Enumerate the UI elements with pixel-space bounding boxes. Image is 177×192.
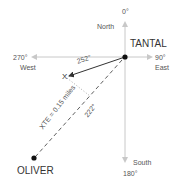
tantal-dot: [122, 54, 127, 59]
north-label: North: [97, 23, 114, 30]
east-degrees: 90°: [155, 54, 166, 61]
north-degrees: 0°: [122, 8, 129, 15]
destination-label: OLIVER: [17, 166, 54, 176]
east-label: East: [155, 64, 169, 71]
oliver-dot: [31, 155, 36, 160]
origin-label: TANTAL: [130, 39, 167, 49]
south-degrees: 180°: [123, 170, 137, 177]
intended-course-line: [36, 60, 122, 156]
west-label: West: [20, 64, 36, 71]
west-degrees: 270°: [13, 54, 27, 61]
south-label: South: [133, 159, 151, 166]
current-position-marker: X: [62, 73, 67, 81]
